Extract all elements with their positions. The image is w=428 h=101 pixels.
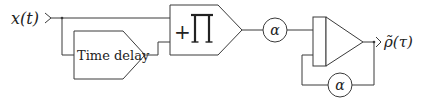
- gain-label: α: [270, 22, 280, 38]
- block-diagram: x(t) Time delay + α: [0, 0, 428, 101]
- feedback-gain-block: α: [328, 73, 352, 97]
- input-arrow-icon: [45, 13, 51, 23]
- product-plus-label: +: [174, 20, 191, 44]
- output-label: ρ̃(τ): [383, 33, 413, 51]
- time-delay-block: Time delay: [74, 31, 150, 79]
- output-arrow-icon: [376, 37, 381, 47]
- wire-input-to-delay: [62, 18, 74, 55]
- product-block: +: [170, 5, 242, 55]
- gain-block: α: [263, 18, 287, 42]
- input-label: x(t): [11, 9, 39, 28]
- feedback-gain-label: α: [335, 77, 345, 93]
- wire-output-to-feedback: [352, 42, 374, 85]
- time-delay-label: Time delay: [77, 48, 150, 63]
- integrator-block: [313, 17, 363, 66]
